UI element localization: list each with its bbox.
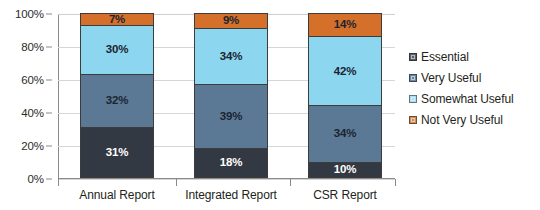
legend-item-label: Very Useful: [421, 71, 481, 85]
y-axis-tick-mark: [46, 47, 52, 48]
legend-swatch-icon: [409, 116, 417, 124]
bar-segment[interactable]: 10%: [308, 162, 382, 179]
plot-area: 7%30%32%31%9%34%39%18%14%42%34%10%: [58, 14, 395, 179]
y-axis-tick-label: 20%: [21, 140, 44, 152]
bar-segment[interactable]: 34%: [194, 28, 268, 84]
y-axis-tick-mark: [46, 14, 52, 15]
y-axis-tick-label: 0%: [28, 173, 44, 185]
bar-csr-report[interactable]: 14%42%34%10%: [308, 13, 382, 178]
bar-segment-value-label: 9%: [223, 15, 239, 27]
bar-segment-value-label: 32%: [106, 95, 128, 107]
bar-segment[interactable]: 34%: [308, 105, 382, 161]
legend-swatch-icon: [409, 74, 417, 82]
bar-integrated-report[interactable]: 9%34%39%18%: [194, 13, 268, 178]
y-axis-line: [58, 14, 59, 179]
bar-segment[interactable]: 7%: [80, 13, 154, 25]
legend-item-label: Somewhat Useful: [421, 92, 514, 106]
bar-segment-value-label: 31%: [106, 147, 128, 159]
legend-item[interactable]: Very Useful: [409, 67, 514, 88]
chart-legend: EssentialVery UsefulSomewhat UsefulNot V…: [409, 46, 514, 130]
bar-segment[interactable]: 31%: [80, 127, 154, 178]
bar-segment-value-label: 34%: [220, 51, 242, 63]
x-axis-category-label: Annual Report: [79, 188, 154, 202]
x-axis-tick-mark: [395, 179, 396, 186]
legend-swatch-icon: [409, 53, 417, 61]
bar-segment-value-label: 18%: [220, 157, 242, 169]
bar-segment[interactable]: 9%: [194, 13, 268, 28]
x-axis-tick-mark: [58, 179, 59, 186]
bar-segment[interactable]: 42%: [308, 36, 382, 105]
y-axis-tick-mark: [46, 80, 52, 81]
bar-annual-report[interactable]: 7%30%32%31%: [80, 13, 154, 178]
legend-item[interactable]: Somewhat Useful: [409, 88, 514, 109]
legend-item-label: Not Very Useful: [421, 113, 503, 127]
bar-segment-value-label: 7%: [109, 14, 125, 25]
y-axis: 0%20%40%60%80%100%: [0, 0, 52, 210]
y-axis-tick-mark: [46, 179, 52, 180]
y-axis-tick-mark: [46, 113, 52, 114]
bar-segment-value-label: 30%: [106, 44, 128, 56]
bar-segment[interactable]: 32%: [80, 74, 154, 127]
stacked-bar-chart: 0%20%40%60%80%100% 7%30%32%31%9%34%39%18…: [0, 0, 540, 210]
x-axis-category-label: Integrated Report: [185, 188, 277, 202]
bar-segment-value-label: 34%: [334, 128, 356, 140]
y-axis-tick-label: 40%: [21, 107, 44, 119]
legend-item[interactable]: Not Very Useful: [409, 109, 514, 130]
bar-segment-value-label: 39%: [220, 111, 242, 123]
x-axis-category-label: CSR Report: [313, 188, 377, 202]
bar-segment-value-label: 14%: [334, 19, 356, 31]
bar-segment[interactable]: 14%: [308, 13, 382, 36]
x-axis-tick-mark: [290, 179, 291, 186]
legend-item-label: Essential: [421, 50, 469, 64]
bar-segment-value-label: 10%: [334, 164, 356, 176]
bar-segment[interactable]: 39%: [194, 84, 268, 148]
y-axis-tick-label: 80%: [21, 41, 44, 53]
y-axis-tick-label: 60%: [21, 74, 44, 86]
y-axis-tick-label: 100%: [15, 8, 44, 20]
y-axis-tick-mark: [46, 146, 52, 147]
bar-segment[interactable]: 30%: [80, 25, 154, 75]
legend-item[interactable]: Essential: [409, 46, 514, 67]
gridline: [58, 179, 395, 180]
bar-segment-value-label: 42%: [334, 66, 356, 78]
x-axis-tick-mark: [176, 179, 177, 186]
legend-swatch-icon: [409, 95, 417, 103]
bar-segment[interactable]: 18%: [194, 148, 268, 178]
